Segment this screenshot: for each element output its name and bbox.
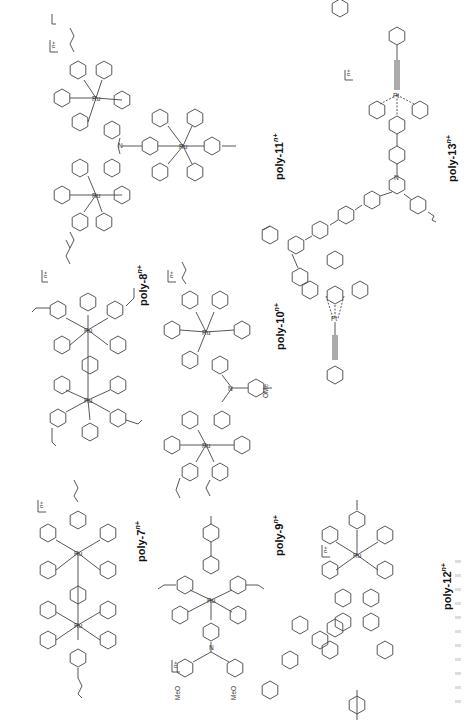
structure-poly-13 bbox=[262, 27, 436, 286]
svg-text:Ru: Ru bbox=[84, 327, 93, 334]
label-poly-9: poly-9n+ bbox=[272, 515, 285, 556]
meo-label-right: MeO bbox=[230, 686, 237, 700]
label-poly-7: poly-7n+ bbox=[134, 521, 147, 562]
meo-label-left: MeO bbox=[174, 686, 181, 700]
svg-text:n+: n+ bbox=[38, 501, 44, 508]
svg-text:Ru: Ru bbox=[353, 552, 362, 559]
svg-text:n+: n+ bbox=[50, 41, 56, 48]
structure-poly-13-pt-unit bbox=[302, 0, 368, 384]
svg-text:n+: n+ bbox=[345, 69, 351, 76]
svg-text:Ru: Ru bbox=[84, 397, 93, 404]
atom-labels: Ru Ru Ru Ru Ru Ru Ru Ru Ru Ru Ru Pt Pt N… bbox=[74, 92, 399, 651]
svg-text:Ru: Ru bbox=[92, 192, 101, 199]
structure-poly-10 bbox=[164, 262, 272, 498]
faint-margin-text bbox=[455, 560, 461, 710]
svg-text:N: N bbox=[118, 142, 123, 149]
metal-ru-label: Ru bbox=[92, 95, 101, 102]
structure-poly-11 bbox=[52, 14, 236, 248]
label-poly-13: poly-13n+ bbox=[445, 135, 458, 182]
label-poly-8: poly-8n+ bbox=[136, 265, 149, 306]
label-poly-12: poly-12n+ bbox=[440, 563, 453, 610]
svg-text:N: N bbox=[228, 385, 233, 392]
svg-text:Ru: Ru bbox=[207, 597, 216, 604]
structure-poly-8 bbox=[32, 240, 142, 446]
svg-text:n+: n+ bbox=[172, 661, 178, 668]
svg-text:N: N bbox=[209, 644, 214, 651]
structure-poly-7 bbox=[40, 480, 116, 698]
label-poly-10: poly-10n+ bbox=[273, 303, 286, 350]
svg-text:n+: n+ bbox=[168, 271, 174, 278]
svg-text:Ru: Ru bbox=[179, 143, 188, 150]
label-poly-11: poly-11n+ bbox=[272, 134, 285, 180]
svg-text:N: N bbox=[394, 174, 399, 181]
figure-chemical-structures: Ru Ru Ru Ru Ru Ru Ru Ru Ru Ru Ru Pt Pt N… bbox=[0, 0, 469, 720]
svg-text:Pt: Pt bbox=[393, 92, 399, 99]
svg-text:n+: n+ bbox=[322, 546, 328, 553]
svg-text:Ru: Ru bbox=[74, 550, 83, 557]
svg-text:n+: n+ bbox=[42, 271, 48, 278]
svg-text:Ru: Ru bbox=[74, 622, 83, 629]
svg-text:Ru: Ru bbox=[202, 329, 211, 336]
ome-label: OMe bbox=[262, 384, 269, 398]
structures-drawing: Ru Ru Ru Ru Ru Ru Ru Ru Ru Ru Ru Pt Pt N… bbox=[0, 0, 469, 720]
charge-brackets bbox=[38, 40, 353, 672]
svg-text:Ru: Ru bbox=[202, 442, 211, 449]
svg-text:Pt: Pt bbox=[331, 315, 337, 322]
